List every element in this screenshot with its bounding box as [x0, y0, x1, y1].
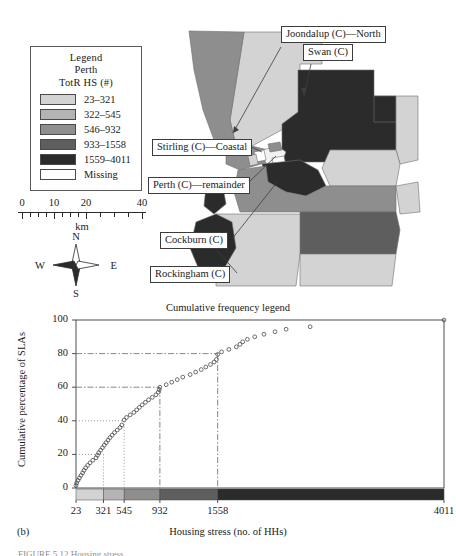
- legend-swatch: [40, 154, 76, 165]
- legend-label: 23–321: [84, 94, 116, 105]
- chart-class-colour-segment: [103, 489, 124, 500]
- chart-data-point: [164, 383, 168, 387]
- legend-class-list: 23–321 322–545 546–932 933–1558 1559–401…: [31, 93, 141, 181]
- legend-title-line-1: Legend: [31, 52, 141, 64]
- chart-class-colour-segment: [160, 489, 218, 500]
- legend-label: 933–1558: [84, 139, 126, 150]
- chart-x-tick-label: 4011: [414, 505, 456, 516]
- legend-item: 546–932: [40, 123, 141, 136]
- chart-data-point: [284, 327, 288, 331]
- chart-panel: Cumulative frequency legend Cumulative p…: [0, 300, 456, 556]
- chart-y-tick-label: 60: [0, 380, 68, 391]
- chart-data-point: [220, 350, 224, 354]
- compass-label-north: N: [72, 231, 80, 242]
- chart-data-point: [245, 337, 249, 341]
- cumulative-frequency-plot: [0, 300, 456, 556]
- figure-caption-cutoff: FIGURE 5.12 Housing stress: [18, 549, 124, 556]
- scalebar-line: [18, 212, 146, 220]
- chart-class-colour-segment: [124, 489, 160, 500]
- chart-data-point: [108, 436, 112, 440]
- chart-data-point: [209, 363, 213, 367]
- chart-data-point: [199, 368, 203, 372]
- legend-item: 933–1558: [40, 138, 141, 151]
- chart-data-point: [150, 395, 154, 399]
- scalebar-tick-label: 10: [49, 197, 60, 208]
- chart-frame: [76, 320, 444, 488]
- map-callout-joondalup: Joondalup (C)—North: [281, 26, 386, 43]
- map-region-dark-right: [374, 96, 396, 122]
- scalebar-numbers: 0 10 20 40: [18, 197, 146, 211]
- map-region-darkgray-lower: [300, 212, 400, 254]
- chart-data-point: [253, 335, 257, 339]
- chart-y-tick-label: 80: [0, 347, 68, 358]
- map-region-light-far-lower: [300, 254, 396, 286]
- map-region-light-right-lower: [396, 182, 420, 214]
- chart-y-axis-label: Cumulative percentage of SLAs: [16, 305, 27, 495]
- compass-label-west: W: [35, 260, 45, 271]
- chart-y-tick-label: 100: [0, 313, 68, 324]
- map-callout-swan: Swan (C): [303, 44, 353, 61]
- chart-y-tick-label: 0: [0, 481, 68, 492]
- chart-data-point: [204, 365, 208, 369]
- chart-x-tick-label: 932: [130, 505, 190, 516]
- legend-label: 322–545: [84, 109, 121, 120]
- legend-label: Missing: [84, 169, 118, 180]
- chart-data-point: [147, 398, 151, 402]
- map-region-light-central: [322, 150, 400, 186]
- compass-label-south: S: [73, 288, 79, 299]
- compass-rose: N S W E: [36, 232, 116, 298]
- chart-data-point: [273, 330, 277, 334]
- map-panel: Legend Perth TotR HS (#) 23–321 322–545 …: [0, 0, 456, 300]
- chart-x-tick-label: 1558: [188, 505, 248, 516]
- scalebar-unit: km: [18, 221, 146, 232]
- chart-data-point: [234, 345, 238, 349]
- chart-class-colour-segment: [76, 489, 103, 500]
- scalebar-tick-label: 20: [81, 197, 92, 208]
- legend-title-line-3: TotR HS (#): [31, 77, 141, 89]
- chart-data-point: [188, 373, 192, 377]
- chart-y-tick-label: 40: [0, 414, 68, 425]
- chart-x-axis-label: Housing stress (no. of HHs): [0, 526, 456, 537]
- figure-container: Legend Perth TotR HS (#) 23–321 322–545 …: [0, 0, 456, 556]
- map-legend: Legend Perth TotR HS (#) 23–321 322–545 …: [30, 46, 142, 191]
- chart-data-point: [227, 348, 231, 352]
- legend-swatch: [40, 139, 76, 150]
- legend-item: 23–321: [40, 93, 141, 106]
- chart-data-point: [175, 378, 179, 382]
- chart-data-point: [262, 332, 266, 336]
- legend-title-line-2: Perth: [31, 64, 141, 76]
- map-scalebar: 0 10 20 40 km: [18, 197, 146, 232]
- chart-data-point: [194, 370, 198, 374]
- map-region-small-c: [268, 142, 282, 152]
- map-callout-perth-remainder: Perth (C)—remainder: [148, 177, 250, 194]
- chart-data-point: [241, 340, 245, 344]
- map-callout-rockingham: Rockingham (C): [150, 266, 230, 283]
- chart-class-colour-segment: [218, 489, 444, 500]
- chart-data-point: [125, 416, 129, 420]
- map-callout-stirling: Stirling (C)—Coastal: [152, 139, 252, 156]
- legend-swatch: [40, 109, 76, 120]
- legend-item: 322–545: [40, 108, 141, 121]
- map-callout-cockburn: Cockburn (C): [160, 232, 228, 249]
- compass-label-east: E: [111, 260, 117, 271]
- legend-swatch: [40, 169, 76, 180]
- legend-swatch: [40, 94, 76, 105]
- map-region-light-right-upper: [396, 96, 418, 164]
- chart-data-point: [308, 325, 312, 329]
- chart-data-point: [181, 375, 185, 379]
- legend-item: Missing: [40, 168, 141, 181]
- chart-y-tick-label: 20: [0, 447, 68, 458]
- legend-label: 1559–4011: [84, 154, 131, 165]
- scalebar-tick-label: 0: [19, 197, 24, 208]
- legend-item: 1559–4011: [40, 153, 141, 166]
- scalebar-tick-label: 40: [137, 197, 148, 208]
- chart-data-point: [128, 413, 132, 417]
- panel-letter: (b): [17, 526, 29, 537]
- legend-label: 546–932: [84, 124, 121, 135]
- chart-data-point: [170, 380, 174, 384]
- legend-swatch: [40, 124, 76, 135]
